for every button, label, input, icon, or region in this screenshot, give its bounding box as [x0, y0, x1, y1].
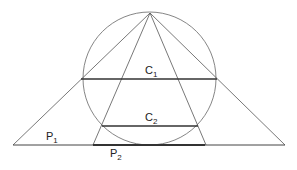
label-c1: C1 [145, 64, 158, 79]
label-c2: C2 [145, 111, 158, 126]
label-p2: P2 [110, 147, 122, 162]
label-p1: P1 [46, 130, 58, 145]
geometry-diagram: C1 C2 P1 P2 [0, 0, 297, 170]
